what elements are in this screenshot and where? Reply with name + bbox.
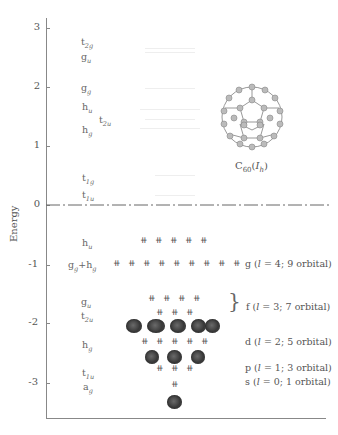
electron-pair: ⧺ — [170, 235, 178, 245]
electron-pair: ⧺ — [173, 258, 181, 268]
level-label-gg-hg: gg+hg — [68, 259, 97, 273]
d-orbital-image — [191, 350, 205, 364]
annotation-s-shell: s (l = 0; 1 orbital) — [245, 376, 331, 387]
tick-mark — [46, 323, 50, 324]
d-orbital-image — [145, 350, 159, 364]
electron-pair: ⧺ — [171, 307, 179, 317]
electron-pair: ⧺ — [141, 336, 149, 346]
electron-pair: ⧺ — [186, 307, 194, 317]
tick-mark — [46, 87, 50, 88]
electron-pair: ⧺ — [155, 235, 163, 245]
annotation-p-shell: p (l = 1; 3 orbital) — [245, 362, 332, 373]
electron-pair: ⧺ — [156, 363, 164, 373]
level-label-hg: hg — [82, 124, 92, 138]
level-label-t1u-occ: t1u — [82, 367, 94, 381]
electron-pair: ⧺ — [163, 293, 171, 303]
unoccupied-level — [145, 88, 195, 89]
level-label-t2g: t2g — [81, 36, 93, 50]
unoccupied-level — [145, 48, 195, 49]
level-label-ag-occ: ag — [83, 381, 93, 395]
tick-mark — [46, 146, 50, 147]
tick-label-2: 2 — [20, 80, 40, 91]
unoccupied-level — [140, 109, 200, 110]
level-label-gu-occ: gu — [81, 296, 91, 310]
electron-pair: ⧺ — [186, 363, 194, 373]
c60-molecule-icon — [213, 78, 291, 156]
y-axis-title: Energy — [8, 206, 19, 243]
electron-pair: ⧺ — [185, 235, 193, 245]
f-orbital-image — [205, 319, 220, 333]
tick-label-neg1: -1 — [18, 258, 38, 269]
f-orbital-image — [170, 319, 186, 333]
f-orbital-image — [191, 319, 206, 333]
electron-pair: ⧺ — [156, 336, 164, 346]
level-label-t2u-occ: t2u — [81, 310, 93, 324]
tick-mark — [46, 265, 50, 266]
unoccupied-level — [140, 128, 200, 129]
electron-pair: ⧺ — [201, 336, 209, 346]
level-label-hg-occ: hg — [82, 339, 92, 353]
annotation-f-shell: f (l = 3; 7 orbital) — [246, 301, 330, 312]
electron-pair: ⧺ — [171, 336, 179, 346]
level-label-gg: gg — [81, 82, 91, 96]
electron-pair: ⧺ — [156, 307, 164, 317]
f-orbital-image — [147, 319, 165, 333]
unoccupied-level — [145, 119, 195, 120]
unoccupied-level — [155, 195, 195, 196]
electron-pair: ⧺ — [128, 258, 136, 268]
electron-pair: ⧺ — [171, 379, 179, 389]
x-axis-line — [46, 418, 326, 419]
electron-pair: ⧺ — [178, 293, 186, 303]
d-orbital-image — [167, 350, 182, 364]
electron-pair: ⧺ — [171, 363, 179, 373]
f-shell-brace: } — [228, 289, 241, 313]
f-orbital-image — [126, 319, 142, 333]
electron-pair: ⧺ — [218, 258, 226, 268]
tick-label-neg2: -2 — [18, 316, 38, 327]
electron-pair: ⧺ — [158, 258, 166, 268]
level-label-gu: gu — [81, 51, 91, 65]
tick-label-0: 0 — [20, 198, 40, 209]
y-axis-line — [46, 18, 47, 419]
electron-pair: ⧺ — [186, 336, 194, 346]
tick-mark — [46, 383, 50, 384]
annotation-g-shell: g (l = 4; 9 orbital) — [245, 258, 332, 269]
unoccupied-level — [155, 175, 195, 176]
electron-pair: ⧺ — [113, 258, 121, 268]
level-label-t1u: t1u — [82, 189, 94, 203]
s-orbital-image — [167, 395, 182, 409]
electron-pair: ⧺ — [193, 293, 201, 303]
tick-label-neg3: -3 — [18, 376, 38, 387]
annotation-d-shell: d (l = 2; 5 orbital) — [245, 336, 332, 347]
electron-pair: ⧺ — [140, 235, 148, 245]
electron-pair: ⧺ — [200, 235, 208, 245]
tick-label-3: 3 — [20, 21, 40, 32]
level-label-t1g: t1g — [82, 172, 94, 186]
electron-pair: ⧺ — [143, 258, 151, 268]
tick-label-1: 1 — [20, 139, 40, 150]
level-label-t2u: t2u — [99, 114, 111, 128]
electron-pair: ⧺ — [233, 258, 241, 268]
electron-pair: ⧺ — [188, 258, 196, 268]
electron-pair: ⧺ — [148, 293, 156, 303]
tick-mark — [46, 28, 50, 29]
electron-pair: ⧺ — [203, 258, 211, 268]
molecule-caption: C60(Ih) — [235, 160, 268, 174]
level-label-hu: hu — [82, 101, 92, 115]
unoccupied-level — [145, 52, 195, 53]
level-label-hu-occ: hu — [82, 237, 92, 251]
